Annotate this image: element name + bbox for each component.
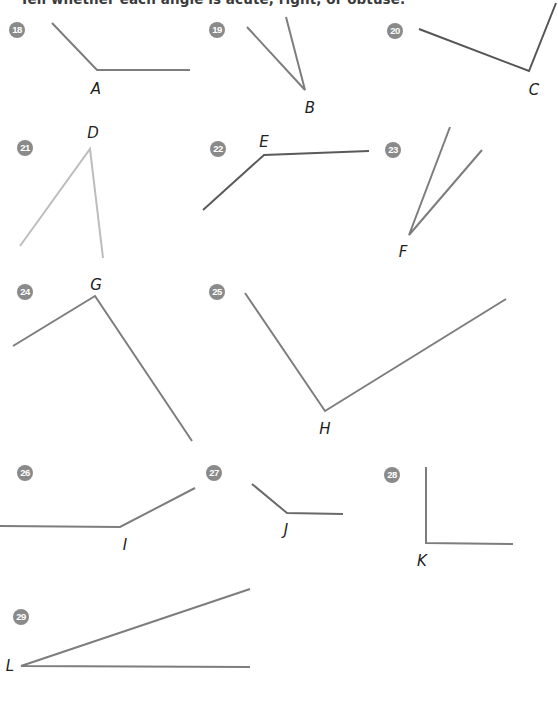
angle-f-figure — [409, 127, 482, 235]
exercise-number-badge: 23 — [385, 142, 401, 158]
exercise-number-badge: 20 — [387, 23, 403, 39]
vertex-label: E — [259, 133, 268, 151]
vertex-label: D — [87, 124, 99, 142]
angle-c-figure — [419, 3, 556, 71]
exercise-number-badge: 19 — [209, 22, 225, 38]
exercise-number-badge: 26 — [17, 465, 33, 481]
angle-d-figure — [20, 149, 103, 258]
angle-l-figure — [21, 589, 250, 667]
vertex-label: L — [6, 657, 14, 675]
exercise-number-badge: 25 — [209, 284, 225, 300]
angle-g-figure — [13, 296, 192, 441]
vertex-label: B — [305, 99, 315, 117]
vertex-label: J — [284, 521, 288, 539]
angle-h-figure — [245, 293, 506, 411]
exercise-number-badge: 24 — [17, 284, 33, 300]
vertex-label: H — [319, 420, 330, 438]
angle-figures — [0, 0, 558, 704]
vertex-label: G — [90, 276, 102, 294]
angle-k-figure — [426, 467, 513, 544]
exercise-number-badge: 18 — [9, 22, 25, 38]
angle-b-figure — [247, 17, 305, 90]
exercise-number-badge: 28 — [384, 467, 400, 483]
exercise-number-badge: 21 — [17, 140, 33, 156]
exercise-number-badge: 27 — [206, 465, 222, 481]
vertex-label: F — [399, 243, 408, 261]
vertex-label: A — [91, 80, 101, 98]
angle-e-figure — [203, 151, 369, 210]
angle-i-figure — [0, 488, 195, 527]
vertex-label: K — [417, 552, 427, 570]
angle-j-figure — [252, 484, 343, 514]
angle-a-figure — [52, 23, 190, 70]
exercise-number-badge: 29 — [13, 609, 29, 625]
vertex-label: C — [529, 81, 539, 99]
vertex-label: I — [123, 536, 127, 554]
exercise-number-badge: 22 — [210, 141, 226, 157]
